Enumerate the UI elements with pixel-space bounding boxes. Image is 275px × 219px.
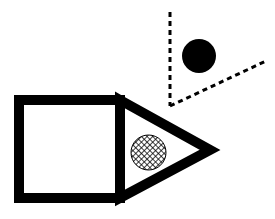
geometric-figure-svg bbox=[0, 0, 275, 219]
hatched-circle-group bbox=[131, 135, 166, 170]
square-body bbox=[19, 100, 120, 198]
figure-canvas bbox=[0, 0, 275, 219]
solid-circle bbox=[182, 39, 216, 73]
